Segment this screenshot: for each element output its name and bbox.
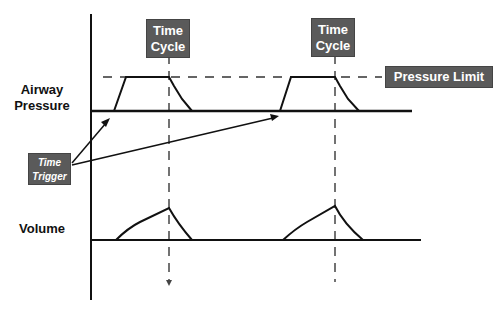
pressure-limit-callout: Pressure Limit [385,66,493,88]
pressure-waveform-2 [280,77,359,111]
callout-text: Trigger [29,170,70,184]
airway-pressure-label: Airway Pressure [10,82,74,114]
callout-text: Time [29,156,70,170]
callout-text: Time [312,22,354,38]
volume-label: Volume [14,221,70,237]
pressure-waveform-1 [114,77,192,111]
pressure-label-line: Pressure [10,98,74,114]
time-trigger-callout: Time Trigger [28,153,71,185]
ventilation-waveform-diagram [0,0,494,311]
time-cycle-callout-1: Time Cycle [146,19,190,58]
trigger-arrowhead-2 [270,114,279,121]
callout-text: Time [147,23,189,39]
trigger-arrow-2 [72,118,273,165]
callout-text: Cycle [147,39,189,55]
volume-waveform-2 [283,206,363,240]
arrowhead-cycle-1 [166,280,172,286]
time-cycle-callout-2: Time Cycle [311,18,355,57]
callout-text: Cycle [312,38,354,54]
volume-waveform-1 [116,208,192,240]
trigger-arrow-1 [72,123,106,163]
trigger-arrowhead-1 [101,118,110,127]
airway-label-line: Airway [10,82,74,98]
